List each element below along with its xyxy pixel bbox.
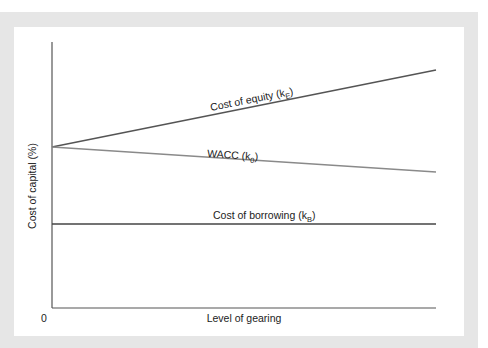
origin-label: 0 bbox=[41, 312, 47, 324]
x-axis-label: Level of gearing bbox=[207, 312, 282, 324]
cost-of-equity-line bbox=[52, 70, 436, 147]
y-axis-label: Cost of capital (%) bbox=[26, 143, 38, 229]
wacc-label: WACC (k0) bbox=[207, 147, 259, 165]
chart-svg: Cost of equity (kE) WACC (k0) Cost of bo… bbox=[0, 0, 488, 348]
cost-of-borrowing-label: Cost of borrowing (kB) bbox=[213, 209, 315, 224]
